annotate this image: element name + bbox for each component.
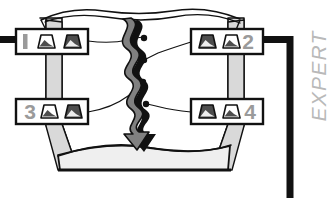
mountain-dark-icon (199, 105, 216, 118)
connector-dot-2 (141, 57, 147, 63)
callout-4[interactable]: 4 (191, 99, 263, 124)
diagram-canvas: 2 3 4 (0, 0, 330, 198)
callout-1-number (23, 34, 28, 49)
connector-dot-3 (140, 79, 146, 85)
mountain-dark-icon (64, 35, 81, 48)
mountain-dark-icon (199, 35, 216, 48)
callout-2-number: 2 (242, 30, 254, 53)
callout-1[interactable] (16, 29, 88, 54)
callout-2[interactable]: 2 (191, 29, 263, 54)
callout-3[interactable]: 3 (16, 99, 88, 124)
connector-dot-4 (143, 101, 149, 107)
mountain-light-icon (223, 35, 240, 48)
callout-4-number: 4 (244, 100, 256, 123)
mountain-light-icon (38, 35, 55, 48)
mountain-dark-icon (65, 105, 82, 118)
mountain-light-icon (41, 105, 58, 118)
connector-dot-1 (141, 35, 147, 41)
mountain-light-icon (223, 105, 240, 118)
callout-3-number: 3 (24, 100, 36, 123)
